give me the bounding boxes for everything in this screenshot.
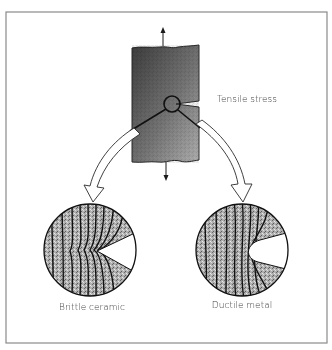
brittle-ceramic-detail (44, 200, 140, 300)
tensile-stress-label: Tensile stress (217, 94, 277, 104)
figure: Tensile stress Brittle ceramic (0, 0, 332, 350)
arrow-up-icon (161, 27, 166, 46)
brittle-ceramic-label: Brittle ceramic (59, 302, 125, 312)
ductile-metal-label: Ductile metal (212, 300, 272, 310)
diagram-canvas: Tensile stress Brittle ceramic (0, 0, 332, 350)
specimen-texture (132, 45, 199, 163)
hollow-arrow-left-icon (84, 128, 140, 202)
arrow-down-icon (164, 162, 169, 181)
hollow-arrow-right-icon (196, 120, 252, 202)
ductile-metal-detail (196, 200, 290, 300)
